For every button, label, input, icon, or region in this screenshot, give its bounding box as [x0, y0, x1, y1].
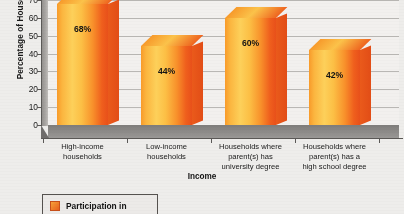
bar: 44% [141, 46, 192, 125]
y-axis-tick-label: 40 [20, 49, 38, 59]
y-axis-tick-label: 70 [20, 0, 38, 5]
bar-chart: Percentage of Households 706050403020100… [0, 0, 404, 214]
bar-front-face [57, 4, 108, 125]
bar-side-face [192, 42, 203, 125]
legend-label: Participation in [66, 201, 127, 211]
y-tick-mark [37, 0, 42, 1]
bar-front-face [309, 50, 360, 125]
category-label-line: Households where [203, 142, 298, 152]
category-label-line: Low-income [119, 142, 214, 152]
bar-value-label: 42% [309, 70, 360, 80]
category-label-line: Households where [287, 142, 382, 152]
category-label-line: parent(s) has a [287, 152, 382, 162]
x-axis-category-label: Low-incomehouseholds [119, 142, 214, 162]
category-label-line: High-income [35, 142, 130, 152]
bar-side-face [276, 13, 287, 125]
y-tick-mark [37, 18, 42, 19]
y-axis-tick-label: 10 [20, 102, 38, 112]
plot-area: 68%44%60%42% [41, 0, 399, 138]
bar-value-label: 60% [225, 38, 276, 48]
y-axis-tick-label: 50 [20, 31, 38, 41]
category-label-line: university degree [203, 162, 298, 172]
y-tick-mark [37, 89, 42, 90]
x-axis-line [41, 138, 403, 139]
x-axis-category-label: Households whereparent(s) hasuniversity … [203, 142, 298, 172]
plot-floor [48, 125, 399, 138]
bar: 42% [309, 50, 360, 125]
y-tick-mark [37, 71, 42, 72]
category-label-line: households [35, 152, 130, 162]
y-axis-tick-labels: 706050403020100 [18, 0, 38, 214]
y-tick-mark [37, 125, 42, 126]
y-axis-tick-label: 0 [20, 120, 38, 130]
bar-side-face [108, 0, 119, 125]
bar-value-label: 68% [57, 24, 108, 34]
x-axis-title: Income [0, 172, 404, 181]
bar: 68% [57, 4, 108, 125]
y-axis-tick-label: 60 [20, 13, 38, 23]
bar: 60% [225, 18, 276, 125]
bar-front-face [141, 46, 192, 125]
y-axis-tick-label: 20 [20, 84, 38, 94]
category-label-line: high school degree [287, 162, 382, 172]
bar-front-face [225, 18, 276, 125]
x-axis-category-label: High-incomehouseholds [35, 142, 130, 162]
legend-swatch-icon [50, 201, 60, 211]
category-label-line: households [119, 152, 214, 162]
y-tick-mark [37, 54, 42, 55]
x-axis-category-label: Households whereparent(s) has ahigh scho… [287, 142, 382, 172]
bar-value-label: 44% [141, 66, 192, 76]
y-tick-mark [37, 36, 42, 37]
category-label-line: parent(s) has [203, 152, 298, 162]
y-axis-tick-label: 30 [20, 66, 38, 76]
bar-side-face [360, 46, 371, 125]
y-tick-mark [37, 107, 42, 108]
chart-legend: Participation in [42, 194, 158, 214]
